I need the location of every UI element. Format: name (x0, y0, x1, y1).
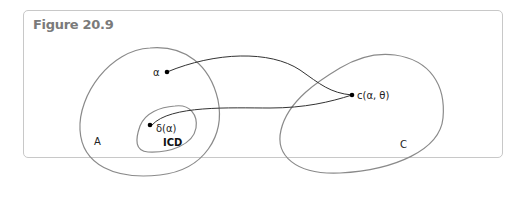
label-alpha: α (153, 67, 160, 78)
label-set-icd: ICD (163, 137, 182, 148)
label-set-c: C (400, 139, 407, 150)
edge-alpha-to-c (167, 56, 352, 95)
diagram: α δ(α) c(α, θ) A ICD C (0, 0, 524, 208)
label-set-a: A (94, 136, 101, 147)
set-c-boundary (280, 54, 443, 173)
edge-delta-to-c (152, 95, 352, 125)
point-alpha (165, 70, 170, 75)
label-delta-alpha: δ(α) (156, 123, 177, 134)
point-c-alpha-theta (350, 93, 355, 98)
label-c-alpha-theta: c(α, θ) (357, 90, 389, 101)
set-a-boundary (80, 48, 219, 176)
point-delta-alpha (148, 123, 153, 128)
